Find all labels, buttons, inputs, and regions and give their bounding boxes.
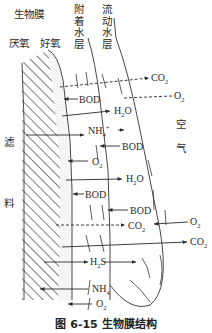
label-char: 水 [73, 27, 84, 39]
co2-top-label: CO2 [151, 73, 168, 86]
h2s-label: H2S [90, 257, 106, 270]
biofilm-label: 生物膜 [14, 9, 44, 20]
bracket-strokes [88, 280, 90, 310]
bod-label-2: BOD [122, 142, 143, 152]
air-label-2: 气 [176, 143, 186, 154]
bod-label-1: BOD [79, 95, 100, 105]
bod-label-4: BOD [130, 206, 151, 216]
figure-caption: 图 6-15 生物膜结构 [0, 315, 212, 331]
label-char: 流 [101, 4, 112, 16]
label-char: 层 [73, 39, 84, 51]
label-char: 附 [73, 4, 84, 16]
flowing-water-boundary [110, 18, 163, 306]
label-char: 层 [101, 39, 112, 51]
air-label-1: 空 [176, 119, 186, 130]
h2o-label-2: H2O [126, 174, 144, 187]
h2o-label-1: H2O [114, 106, 132, 119]
flowing-water-layer-label: 流 动 水 层 [101, 4, 112, 50]
anaerobic-label: 厌氧 [9, 38, 29, 49]
o2-mid-label: O2 [92, 157, 102, 170]
o2-top-label: O2 [174, 91, 184, 104]
attached-water-layer-label: 附 着 水 层 [73, 4, 84, 50]
filter-media-label-2: 料 [4, 198, 14, 209]
nh4-label-2: NH4 [92, 284, 110, 297]
aerobic-label: 好氧 [40, 38, 60, 49]
label-char: 水 [101, 27, 112, 39]
co2-right-label: CO2 [190, 237, 207, 250]
biofilm-structure-diagram: 生物膜 厌氧 好氧 附 着 水 层 流 动 水 层 滤 料 空 气 CO2 O2… [0, 0, 212, 333]
bod-label-3: BOD [85, 190, 106, 200]
o2-right-label: O2 [190, 217, 200, 230]
filter-media-label-1: 滤 [4, 137, 14, 148]
o2-bottom-label: O2 [96, 299, 106, 312]
nh4-label-1: NH4+ [88, 125, 109, 139]
co2-mid-label: CO2 [128, 221, 145, 234]
